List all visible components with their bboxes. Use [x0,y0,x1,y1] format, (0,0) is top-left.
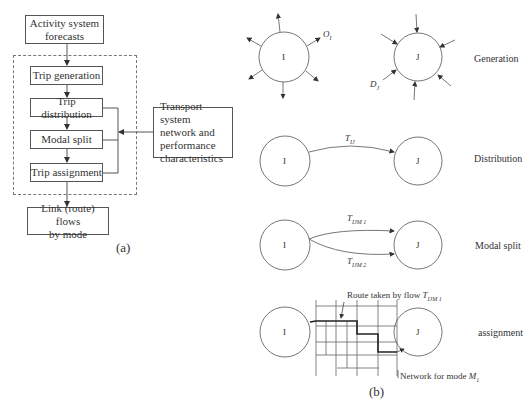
t-mode1-subscript: IJM 1 [352,219,366,225]
gen-dest-node: J [416,52,420,62]
row-label-modal-split: Modal split [475,240,521,251]
modal-origin-node: I [283,240,286,250]
network-note-text: Network for mode [400,371,469,381]
mode1-flow-label: TIJM 1 [347,213,366,225]
route-note-text: Route taken by flow [347,290,423,300]
d-subscript: J [377,85,380,91]
assign-origin-node: I [283,327,286,337]
dist-dest-node: J [416,156,420,166]
network-grid [316,300,397,376]
t-subscript: IJ [350,139,355,145]
dist-origin-node: I [283,156,286,166]
row-label-generation: Generation [474,53,518,64]
row-label-distribution: Distribution [474,153,522,164]
network-mode-subscript: 1 [476,377,479,383]
route-annotation: Route taken by flow TIJM 1 [347,290,442,302]
gen-origin-node: I [282,52,285,62]
route-flow-subscript: IJM 1 [428,296,442,302]
o-subscript: I [330,35,332,41]
network-annotation: Network for mode M1 [400,371,479,383]
row-label-assignment: assignment [478,327,523,338]
dest-flow-label: DJ [370,79,379,91]
caption-b: (b) [369,384,384,400]
modal-dest-node: J [416,240,420,250]
assign-dest-node: J [416,327,420,337]
t-mode2-subscript: IJM 2 [352,262,366,268]
mode2-flow-label: TIJM 2 [347,256,366,268]
origin-flow-label: OI [323,29,332,41]
distribution-flow-label: TIJ [345,133,355,145]
